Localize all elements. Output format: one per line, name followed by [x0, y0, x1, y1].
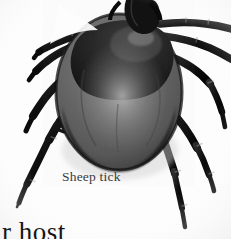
- tick-illustration: [0, 0, 231, 239]
- photo-vignette: [0, 0, 231, 239]
- body-text-bottom-fragment: ir host: [0, 219, 66, 239]
- sheep-tick-photograph: [0, 0, 231, 239]
- photo-caption: Sheep tick: [62, 169, 121, 185]
- book-page: Sheep tick e ir host: [0, 0, 231, 239]
